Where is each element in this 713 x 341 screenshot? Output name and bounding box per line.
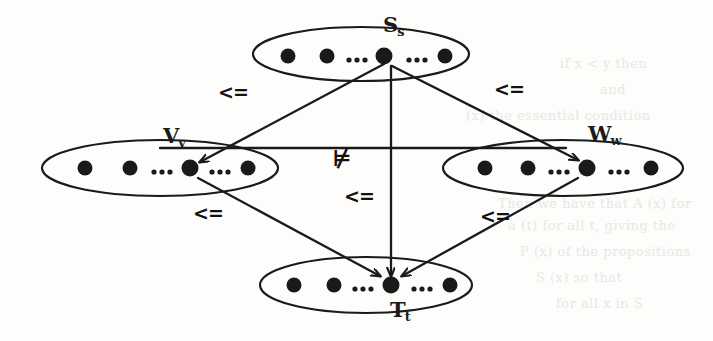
element-dot-V-1 xyxy=(123,161,138,176)
node-label-sub-V: v xyxy=(178,135,186,150)
ellipsis-dot-S-8 xyxy=(422,57,427,62)
node-label-sub-W: w xyxy=(611,133,622,148)
element-dot-S-5 xyxy=(376,48,393,65)
ellipsis-dot-W-6 xyxy=(608,169,613,174)
node-label-S: Ss xyxy=(383,12,405,39)
node-set-diagram xyxy=(0,0,713,341)
element-dot-T-0 xyxy=(287,278,302,293)
ellipsis-dot-T-6 xyxy=(411,286,416,291)
ellipsis-dot-S-2 xyxy=(346,57,351,62)
ellipsis-dot-W-4 xyxy=(564,169,569,174)
ellipsis-dot-T-8 xyxy=(427,286,432,291)
element-dot-W-1 xyxy=(521,161,536,176)
ellipsis-dot-T-4 xyxy=(368,286,373,291)
node-label-main-W: W xyxy=(588,121,612,146)
element-dot-V-5 xyxy=(182,160,199,177)
ellipsis-dot-W-8 xyxy=(624,169,629,174)
element-dot-W-5 xyxy=(579,160,596,177)
edge-label-S-to-T: <= xyxy=(344,185,374,207)
node-label-main-T: T xyxy=(390,297,406,322)
ellipsis-dot-W-3 xyxy=(556,169,561,174)
ellipsis-dot-W-2 xyxy=(548,169,553,174)
ellipsis-dot-T-2 xyxy=(352,286,357,291)
element-dot-T-1 xyxy=(327,278,342,293)
ellipsis-dot-V-2 xyxy=(151,169,156,174)
ellipsis-dot-V-7 xyxy=(217,169,222,174)
element-dot-W-0 xyxy=(478,161,493,176)
ellipsis-dot-V-8 xyxy=(225,169,230,174)
ellipsis-dot-V-4 xyxy=(167,169,172,174)
figure-page: (x) the essential conditionThen we have … xyxy=(0,0,713,341)
element-dot-W-9 xyxy=(644,161,659,176)
node-label-sub-T: t xyxy=(405,309,411,324)
element-dot-S-9 xyxy=(438,49,453,64)
relation-symbol-not-models: ⊭ xyxy=(332,147,351,169)
node-label-sub-S: s xyxy=(397,24,404,39)
ellipsis-dot-S-7 xyxy=(414,57,419,62)
ellipsis-dot-V-3 xyxy=(159,169,164,174)
element-dot-S-1 xyxy=(320,49,335,64)
node-label-main-S: S xyxy=(383,12,398,37)
element-dot-V-9 xyxy=(241,161,256,176)
element-dot-T-9 xyxy=(443,278,458,293)
ellipsis-dot-V-6 xyxy=(209,169,214,174)
element-dot-V-0 xyxy=(78,161,93,176)
edge-label-S-to-V: <= xyxy=(218,81,248,103)
edge-label-V-to-T: <= xyxy=(193,202,223,224)
element-dot-T-5 xyxy=(383,277,400,294)
node-label-main-V: V xyxy=(163,123,179,148)
node-label-V: Vv xyxy=(163,123,186,150)
ellipsis-dot-S-6 xyxy=(406,57,411,62)
edge-label-W-to-T: <= xyxy=(480,205,510,227)
edge-label-S-to-W: <= xyxy=(494,78,524,100)
node-label-T: Tt xyxy=(390,297,411,324)
ellipsis-dot-T-3 xyxy=(360,286,365,291)
ellipsis-dot-T-7 xyxy=(419,286,424,291)
ellipsis-dot-S-4 xyxy=(362,57,367,62)
node-label-W: Ww xyxy=(588,121,622,148)
element-dot-S-0 xyxy=(281,49,296,64)
ellipsis-dot-S-3 xyxy=(354,57,359,62)
ellipsis-dot-W-7 xyxy=(616,169,621,174)
